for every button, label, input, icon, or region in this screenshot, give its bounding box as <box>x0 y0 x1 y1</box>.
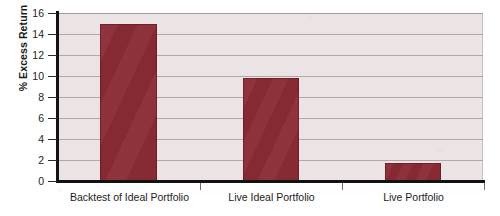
x-category-label-backtest-of-ideal-portfolio: Backtest of Ideal Portfolio <box>59 191 200 203</box>
x-axis-spine <box>56 180 485 183</box>
bar-live-ideal-portfolio <box>243 78 299 181</box>
x-axis-end-tick <box>484 183 485 190</box>
y-tick-label-8: 8 <box>14 91 44 103</box>
y-tick-0 <box>48 181 57 182</box>
y-tick-label-6: 6 <box>14 112 44 124</box>
y-tick-label-10: 10 <box>14 70 44 82</box>
y-tick-12 <box>48 55 57 56</box>
x-category-separator-1 <box>200 183 201 190</box>
x-category-label-live-ideal-portfolio: Live Ideal Portfolio <box>201 191 342 203</box>
bar-chart: % Excess Return 16 14 12 10 8 6 4 2 0 <box>0 0 500 216</box>
y-tick-16 <box>48 13 57 14</box>
plot-area <box>59 13 483 181</box>
y-tick-label-16: 16 <box>14 7 44 19</box>
y-tick-2 <box>48 160 57 161</box>
y-tick-14 <box>48 34 57 35</box>
y-tick-4 <box>48 139 57 140</box>
x-category-separator-2 <box>342 183 343 190</box>
y-tick-label-2: 2 <box>14 154 44 166</box>
y-tick-label-4: 4 <box>14 133 44 145</box>
x-category-label-live-portfolio: Live Portfolio <box>343 191 484 203</box>
y-tick-label-12: 12 <box>14 49 44 61</box>
y-tick-8 <box>48 97 57 98</box>
y-tick-6 <box>48 118 57 119</box>
bar-backtest-of-ideal-portfolio <box>100 24 157 182</box>
y-tick-label-14: 14 <box>14 28 44 40</box>
gridline-16 <box>59 13 483 14</box>
bar-live-portfolio <box>385 163 441 181</box>
y-tick-10 <box>48 76 57 77</box>
y-tick-label-0: 0 <box>14 175 44 187</box>
